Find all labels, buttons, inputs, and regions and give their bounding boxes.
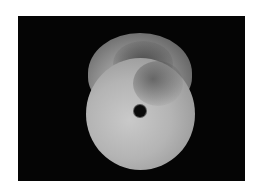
photograph <box>18 16 245 181</box>
center-hole <box>134 105 146 117</box>
disc-shading <box>133 61 183 106</box>
